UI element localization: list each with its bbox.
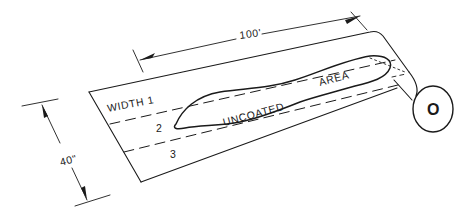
arrowhead-down-icon	[81, 186, 87, 200]
label-width-1: WIDTH 1	[106, 93, 155, 114]
arrowhead-up-icon	[42, 105, 48, 118]
label-width-dim: 40"	[58, 152, 78, 168]
label-uncoated: UNCOATED	[221, 100, 285, 128]
label-area: AREA	[317, 68, 350, 88]
width-dimension: 40"	[22, 99, 110, 206]
label-width-2: 2	[156, 122, 162, 134]
roll: O	[409, 72, 453, 132]
arrowhead-left-icon	[140, 53, 155, 60]
roll-mark: O	[427, 101, 439, 118]
fabric-roll-diagram: O WIDTH 1 2 3 UNCOATED AREA 100' 40"	[0, 0, 471, 219]
label-length: 100'	[239, 26, 262, 41]
length-dimension: 100'	[133, 12, 367, 72]
label-width-3: 3	[170, 148, 176, 160]
